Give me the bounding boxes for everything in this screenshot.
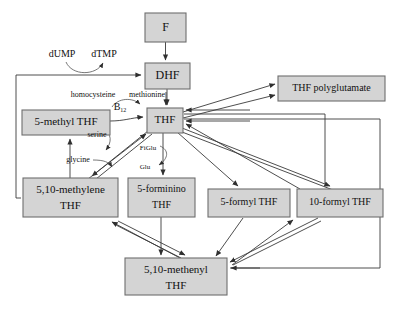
node-10-formyl-thf-label: 10-formyl THF	[309, 196, 371, 207]
node-510-methylene-thf-label-line2: THF	[60, 199, 81, 211]
node-dhf-label: DHF	[155, 68, 179, 82]
line-thf-to-methylene-b	[96, 134, 152, 179]
node-5-forminino-thf-label-line1: 5-forminino	[137, 183, 185, 194]
annotation-serine: serine	[87, 130, 107, 139]
arrow-methenyl-to-formyl10	[232, 220, 293, 265]
node-510-methylene-thf-label-line1: 5,10-methylene	[36, 183, 105, 195]
arrow-methenyl-to-methylene	[112, 222, 180, 258]
node-510-methenyl-thf[interactable]: 5,10-methenyl THF	[125, 258, 227, 295]
node-f[interactable]: F	[145, 13, 186, 42]
annotation-glycine: glycine	[66, 155, 90, 164]
node-510-methenyl-thf-label-line2: THF	[166, 279, 187, 291]
annotation-methionine: methionine	[129, 90, 165, 99]
arrow-methylene-to-methenyl	[118, 221, 185, 255]
annotation-b12: B12	[114, 101, 127, 113]
line-right-rail-inner	[184, 114, 325, 186]
annotation-glu: Glu	[140, 163, 151, 171]
arrow-methyl5-to-thf	[110, 117, 143, 121]
node-10-formyl-thf[interactable]: 10-formyl THF	[297, 189, 383, 217]
node-5-formyl-thf[interactable]: 5-formyl THF	[208, 189, 290, 217]
node-thf-label: THF	[155, 113, 176, 125]
line-thf-to-formyl10-b	[182, 132, 333, 190]
annotation-b12-subscript: 12	[120, 107, 126, 113]
pathway-svg: F DHF THF THF polyglutamate 5-methyl THF	[0, 0, 399, 315]
annotation-figlu: FiGlu	[140, 144, 157, 152]
annotation-dtmp: dTMP	[91, 48, 117, 59]
node-510-methylene-thf[interactable]: 5,10-methylene THF	[23, 178, 118, 217]
annotation-homocysteine: homocysteine	[71, 90, 116, 99]
arrow-thf-to-formyl10	[182, 128, 330, 186]
node-510-methenyl-thf-label-line1: 5,10-methenyl	[144, 263, 208, 275]
arrow-dump-to-dtmp	[66, 62, 103, 73]
arrow-glycine	[93, 160, 112, 167]
node-5-formyl-thf-label: 5-formyl THF	[221, 196, 278, 207]
node-f-label: F	[162, 20, 169, 34]
node-5-forminino-thf-label-line2: THF	[152, 199, 171, 210]
node-thf-polyglutamate-label: THF polyglutamate	[292, 82, 371, 93]
pathway-diagram: F DHF THF THF polyglutamate 5-methyl THF	[0, 0, 399, 315]
arrow-formyl10-to-methenyl	[230, 218, 318, 262]
annotation-dump: dUMP	[49, 48, 76, 59]
node-dhf[interactable]: DHF	[145, 63, 190, 89]
node-5-forminino-thf[interactable]: 5-forminino THF	[128, 178, 195, 217]
arrow-methylene-to-thf	[88, 134, 146, 179]
node-thf[interactable]: THF	[147, 108, 183, 133]
line-formyl10-to-methenyl-b	[233, 221, 321, 265]
arrow-formyl5-to-methenyl	[216, 218, 243, 256]
arrow-formyl10-to-thf	[186, 124, 300, 189]
node-5-methyl-thf-label: 5-methyl THF	[34, 115, 97, 127]
node-thf-polyglutamate[interactable]: THF polyglutamate	[278, 76, 385, 101]
